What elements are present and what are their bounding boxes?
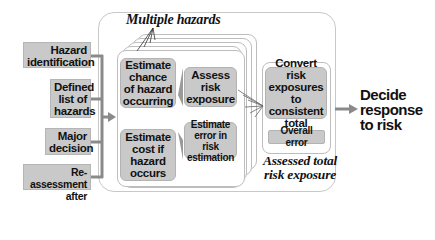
text-line: Decide	[360, 87, 423, 102]
decide-response-output: Decide response to risk	[360, 87, 423, 132]
output-arrow-icon	[349, 104, 358, 114]
chance-to-assess-arrow-icon	[178, 68, 183, 106]
cost-to-error-arrow-icon	[178, 132, 183, 160]
bracket-arrow-icon	[108, 112, 116, 122]
text-line: to risk	[360, 117, 423, 132]
text-line: response	[360, 102, 423, 117]
